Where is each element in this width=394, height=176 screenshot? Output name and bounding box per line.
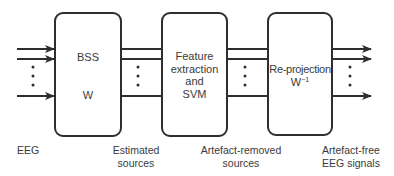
artefact-free-eeg-label: Artefact-free EEG signals [316, 144, 386, 170]
estimated-sources-line-1: Estimated [105, 144, 167, 157]
inverse-matrix-symbol: W [291, 76, 301, 88]
artefact-removed-lines [227, 49, 267, 96]
output-arrows [332, 49, 371, 96]
artefact-removed-line-1: Artefact-removed [198, 144, 284, 157]
bss-block: BSS W [54, 12, 122, 137]
inverse-exponent: −1 [301, 76, 309, 83]
bss-label: BSS [56, 51, 120, 64]
artefact-removed-line-2: sources [198, 157, 284, 170]
artefact-free-line-2: EEG signals [316, 157, 386, 170]
feature-svm-block: Feature extraction and SVM [161, 12, 228, 137]
input-arrows [17, 49, 54, 96]
artefact-free-line-1: Artefact-free [316, 144, 386, 157]
reprojection-block: Re-projection W−1 [267, 12, 333, 136]
feature-line-1: Feature [163, 50, 226, 63]
reprojection-label: Re-projection [267, 63, 333, 76]
estimated-sources-line-2: sources [105, 157, 167, 170]
feature-line-3: and [163, 75, 226, 88]
feature-line-4: SVM [163, 88, 226, 101]
estimated-source-lines [121, 49, 161, 96]
eeg-input-label: EEG [17, 144, 39, 157]
artefact-removed-sources-label: Artefact-removed sources [198, 144, 284, 170]
inverse-matrix-label: W−1 [269, 76, 331, 89]
feature-line-2: extraction [163, 63, 226, 76]
estimated-sources-label: Estimated sources [105, 144, 167, 170]
w-matrix-label: W [56, 89, 120, 102]
